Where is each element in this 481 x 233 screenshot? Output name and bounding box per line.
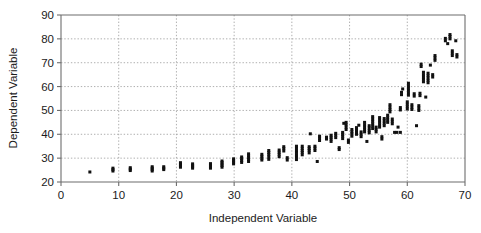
- data-point: [388, 103, 391, 106]
- data-point: [380, 135, 383, 138]
- data-point: [111, 167, 114, 170]
- data-point: [420, 63, 423, 66]
- data-point: [360, 130, 363, 133]
- data-point: [368, 124, 371, 127]
- data-point: [221, 160, 224, 163]
- data-point: [341, 131, 344, 134]
- data-point: [407, 82, 410, 85]
- data-point: [365, 140, 368, 143]
- y-tick-label-20: 20: [41, 176, 54, 188]
- y-axis-title: Dependent Variable: [7, 48, 19, 149]
- x-tick-label-0: 0: [58, 189, 64, 201]
- data-point: [301, 145, 304, 148]
- data-point: [345, 121, 348, 124]
- data-point: [397, 126, 400, 129]
- y-tick-label-70: 70: [41, 57, 54, 69]
- data-point: [330, 134, 333, 137]
- y-tick-label-60: 60: [41, 81, 54, 93]
- data-point: [431, 73, 434, 76]
- data-point: [162, 165, 165, 168]
- x-tick-label-50: 50: [343, 189, 356, 201]
- data-point: [427, 72, 430, 75]
- data-point: [334, 132, 337, 135]
- data-point: [375, 126, 378, 129]
- data-point: [391, 118, 394, 121]
- data-point: [433, 54, 436, 57]
- data-point: [418, 92, 421, 95]
- x-axis-ticks: [61, 182, 465, 186]
- data-point: [455, 53, 458, 56]
- data-point: [363, 121, 366, 124]
- data-point: [247, 152, 250, 155]
- data-point: [179, 161, 182, 164]
- data-point: [454, 39, 457, 42]
- y-tick-label-80: 80: [41, 33, 54, 45]
- data-point: [401, 87, 404, 90]
- data-point: [400, 91, 403, 94]
- data-point: [325, 136, 328, 139]
- data-point: [383, 117, 386, 120]
- x-tick-label-60: 60: [401, 189, 414, 201]
- data-point: [286, 156, 289, 159]
- data-point: [371, 115, 374, 118]
- data-point: [295, 145, 298, 148]
- y-tick-label-40: 40: [41, 128, 54, 140]
- data-point: [232, 157, 235, 160]
- chart-figure: 2030405060708090 010203040506070 Indepen…: [0, 0, 481, 233]
- data-point: [448, 33, 451, 36]
- data-point: [424, 96, 427, 99]
- data-point: [451, 49, 454, 52]
- data-point: [395, 131, 398, 134]
- data-point: [350, 128, 353, 131]
- x-tick-label-70: 70: [459, 189, 472, 201]
- data-point: [378, 116, 381, 119]
- data-point: [357, 124, 360, 127]
- y-axis-ticks: [57, 15, 61, 182]
- data-point: [399, 131, 402, 134]
- data-point: [417, 104, 420, 107]
- data-point: [278, 149, 281, 152]
- y-tick-labels: 2030405060708090: [41, 9, 54, 188]
- data-point: [267, 149, 270, 152]
- data-point: [313, 145, 316, 148]
- data-point: [88, 170, 91, 173]
- x-tick-label-40: 40: [285, 189, 298, 201]
- data-point: [429, 64, 432, 67]
- data-point: [444, 37, 447, 40]
- data-point: [308, 145, 311, 148]
- x-tick-labels: 010203040506070: [58, 189, 472, 201]
- data-point: [151, 165, 154, 168]
- x-axis-title: Independent Variable: [209, 212, 318, 224]
- data-point: [406, 100, 409, 103]
- y-tick-label-50: 50: [41, 104, 54, 116]
- data-point: [386, 114, 389, 117]
- data-point: [129, 166, 132, 169]
- data-point: [347, 139, 350, 142]
- data-point: [318, 135, 321, 138]
- data-point: [446, 42, 449, 45]
- y-tick-label-90: 90: [41, 9, 54, 21]
- data-point: [260, 153, 263, 156]
- data-point: [338, 146, 341, 149]
- data-point: [413, 92, 416, 95]
- data-point: [309, 132, 312, 135]
- data-point: [399, 106, 402, 109]
- data-point: [209, 162, 212, 165]
- x-tick-label-10: 10: [112, 189, 125, 201]
- data-point: [422, 71, 425, 74]
- x-tick-label-20: 20: [170, 189, 183, 201]
- data-point: [240, 155, 243, 158]
- data-point: [415, 124, 418, 127]
- data-point: [282, 145, 285, 148]
- data-point: [316, 160, 319, 163]
- data-point: [191, 162, 194, 165]
- scatter-plot: 2030405060708090 010203040506070 Indepen…: [0, 0, 481, 233]
- x-tick-label-30: 30: [228, 189, 241, 201]
- y-tick-label-30: 30: [41, 152, 54, 164]
- data-point: [410, 103, 413, 106]
